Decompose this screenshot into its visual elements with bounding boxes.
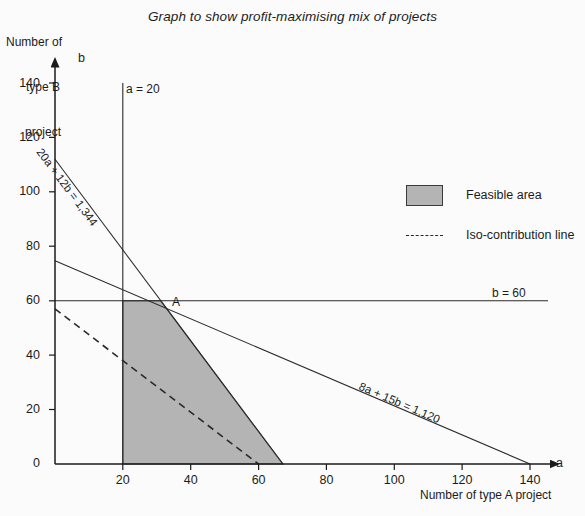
x-tick-label-100: 100 [374, 473, 414, 487]
plot-graphics [0, 0, 585, 516]
feasible-area-region [123, 301, 283, 464]
x-tick-label-140: 140 [510, 473, 550, 487]
y-tick-label-20: 20 [2, 402, 40, 416]
x-tick-label-20: 20 [103, 473, 143, 487]
legend: Feasible area Iso-contribution line [406, 182, 574, 248]
y-tick-label-120: 120 [2, 130, 40, 144]
legend-label-feasible-area: Feasible area [466, 188, 542, 202]
dashed-line-icon [406, 235, 443, 236]
chart-canvas: Graph to show profit-maximising mix of p… [0, 0, 585, 516]
legend-item-feasible-area: Feasible area [406, 182, 574, 208]
line-label-b-equals-60: b = 60 [492, 286, 526, 300]
y-tick-label-40: 40 [2, 348, 40, 362]
x-axis-ticks [123, 464, 530, 470]
x-tick-label-60: 60 [239, 473, 279, 487]
x-tick-label-40: 40 [171, 473, 211, 487]
y-tick-label-60: 60 [2, 293, 40, 307]
legend-item-iso-contribution: Iso-contribution line [406, 222, 574, 248]
y-tick-label-100: 100 [2, 184, 40, 198]
x-tick-label-80: 80 [306, 473, 346, 487]
y-tick-label-140: 140 [2, 76, 40, 90]
y-tick-label-80: 80 [2, 239, 40, 253]
line-label-a-equals-20: a = 20 [126, 82, 160, 96]
legend-label-iso-contribution: Iso-contribution line [466, 228, 574, 242]
y-axis-ticks [49, 83, 55, 410]
point-a-label: A [172, 295, 180, 309]
x-tick-label-120: 120 [442, 473, 482, 487]
y-tick-label-0: 0 [2, 456, 40, 470]
feasible-area-swatch-icon [406, 185, 443, 206]
